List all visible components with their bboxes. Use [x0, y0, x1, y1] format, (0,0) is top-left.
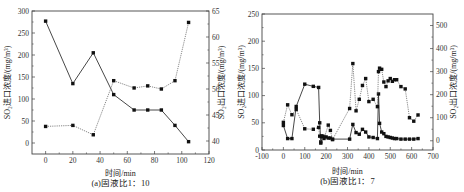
- data-marker: [395, 78, 398, 81]
- data-marker: [312, 85, 315, 88]
- data-marker: [173, 79, 176, 82]
- series-outlet-line: [46, 22, 189, 134]
- data-marker: [412, 137, 415, 140]
- y-left-tick-label: 50: [22, 117, 30, 126]
- y-left-tick-label: 300: [18, 7, 30, 16]
- y-right-tick-label: 200: [436, 90, 448, 99]
- data-marker: [404, 87, 407, 90]
- data-marker: [318, 121, 321, 124]
- plot-frame: [32, 11, 209, 154]
- y-right-tick-label: 40: [212, 137, 220, 146]
- data-marker: [317, 126, 320, 129]
- x-tick-label: 0: [282, 152, 286, 161]
- chart-panel-b: -100010020030040050060070005010015020025…: [236, 10, 458, 186]
- data-marker: [187, 21, 190, 24]
- data-marker: [354, 131, 357, 134]
- data-marker: [384, 85, 387, 88]
- x-tick-label: 300: [342, 152, 354, 161]
- data-marker: [160, 87, 163, 90]
- x-tick-label: 20: [69, 156, 77, 165]
- data-marker: [416, 113, 419, 116]
- data-marker: [92, 51, 95, 54]
- data-marker: [382, 80, 385, 83]
- x-tick-label: 100: [299, 152, 311, 161]
- data-marker: [371, 136, 374, 139]
- y-left-tick-label: 0: [25, 139, 29, 148]
- y-left-tick-label: 150: [18, 73, 30, 82]
- y-left-tick-label: 250: [18, 29, 30, 38]
- data-marker: [322, 137, 325, 140]
- data-marker: [358, 133, 361, 136]
- y-right-tick-label: 0: [436, 136, 440, 145]
- y-left-tick-label: 50: [252, 118, 260, 127]
- data-marker: [408, 116, 411, 119]
- data-marker: [378, 122, 381, 125]
- data-marker: [376, 105, 379, 108]
- data-marker: [319, 141, 322, 144]
- x-tick-label: 40: [96, 156, 104, 165]
- data-marker: [364, 130, 367, 133]
- y-right-tick-label: 400: [436, 44, 448, 53]
- x-tick-label: 100: [176, 156, 188, 165]
- data-marker: [290, 137, 293, 140]
- y-left-tick-label: 100: [248, 91, 260, 100]
- series-inlet-line: [46, 21, 189, 142]
- data-marker: [377, 70, 380, 73]
- data-marker: [412, 119, 415, 122]
- data-marker: [303, 82, 306, 85]
- y-right-axis-label: SO₂出口浓度/(mg/m³): [216, 45, 226, 119]
- x-tick-label: 60: [124, 156, 132, 165]
- data-marker: [286, 103, 289, 106]
- x-tick-label: 600: [406, 152, 418, 161]
- x-tick-label: 0: [44, 156, 48, 165]
- data-marker: [295, 108, 298, 111]
- data-marker: [329, 129, 332, 132]
- chart-canvas: 0204060801001200501001502002503004045505…: [0, 0, 464, 192]
- data-marker: [361, 84, 364, 87]
- x-tick-label: 700: [427, 152, 439, 161]
- y-right-tick-label: 65: [212, 7, 220, 16]
- data-marker: [331, 138, 334, 141]
- data-marker: [286, 137, 289, 140]
- data-marker: [44, 125, 47, 128]
- figure-caption: (b)固液比1：7: [320, 176, 374, 186]
- data-marker: [327, 123, 330, 126]
- data-marker: [376, 137, 379, 140]
- data-marker: [395, 137, 398, 140]
- data-marker: [361, 128, 364, 131]
- data-marker: [317, 86, 320, 89]
- data-marker: [173, 124, 176, 127]
- y-right-tick-label: 100: [436, 113, 448, 122]
- y-left-tick-label: 200: [18, 51, 30, 60]
- data-marker: [408, 137, 411, 140]
- data-marker: [132, 108, 135, 111]
- data-marker: [351, 123, 354, 126]
- data-marker: [377, 92, 380, 95]
- chart-panel-a: 0204060801001200501001502002503004045505…: [2, 7, 226, 188]
- y-left-axis-label: SO₂进口浓度/(mg/m³): [236, 45, 246, 119]
- data-marker: [399, 85, 402, 88]
- data-marker: [71, 82, 74, 85]
- plot-frame: [262, 14, 433, 150]
- data-marker: [354, 109, 357, 112]
- data-marker: [112, 79, 115, 82]
- y-left-axis-label: SO₂进口浓度/(mg/m³): [2, 45, 12, 119]
- data-marker: [282, 121, 285, 124]
- data-marker: [351, 62, 354, 65]
- data-marker: [348, 137, 351, 140]
- y-left-tick-label: 100: [18, 95, 30, 104]
- x-tick-label: 500: [385, 152, 397, 161]
- data-marker: [348, 107, 351, 110]
- data-marker: [146, 84, 149, 87]
- data-marker: [404, 137, 407, 140]
- data-marker: [371, 98, 374, 101]
- data-marker: [303, 127, 306, 130]
- data-marker: [160, 108, 163, 111]
- data-marker: [187, 140, 190, 143]
- x-tick-label: 120: [203, 156, 215, 165]
- data-marker: [71, 124, 74, 127]
- y-left-tick-label: 200: [248, 37, 260, 46]
- y-right-tick-label: 500: [436, 21, 448, 30]
- data-marker: [290, 113, 293, 116]
- data-marker: [358, 98, 361, 101]
